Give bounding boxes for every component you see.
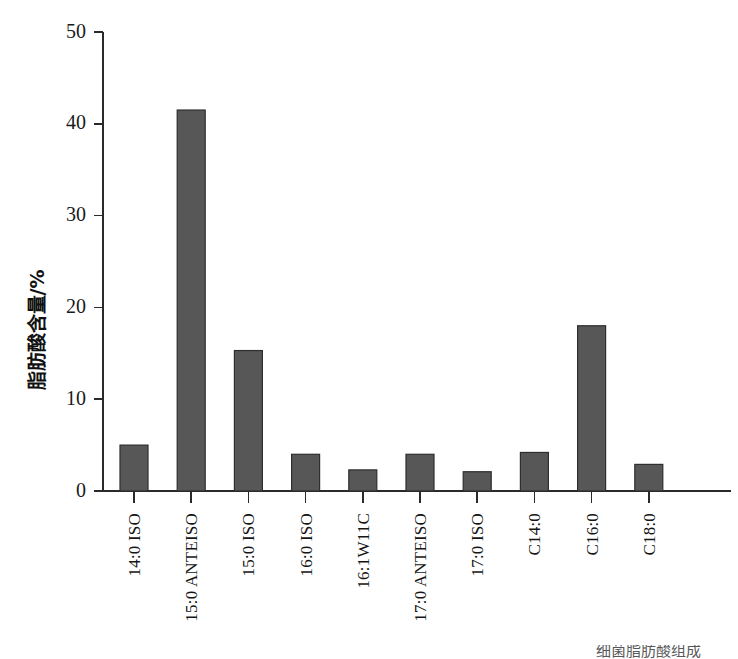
x-tick-label: 17:0 ANTEISO [411,513,430,622]
chart-canvas: 01020304050 14:0 ISO15:0 ANTEISO15:0 ISO… [0,0,738,659]
clipped-caption-text: 细菌脂肪酸组成 [596,645,736,658]
x-axis-ticks: 14:0 ISO15:0 ANTEISO15:0 ISO16:0 ISO16:1… [125,491,659,622]
x-tick-label: 16:0 ISO [297,513,316,576]
x-tick-label: C18:0 [640,513,659,556]
x-tick-label: 17:0 ISO [468,513,487,576]
bar [120,445,148,491]
y-tick-label: 0 [76,479,86,501]
svg-text:脂肪酸含量/%: 脂肪酸含量/% [26,270,48,391]
x-tick-label: C16:0 [583,513,602,556]
x-tick-label: 14:0 ISO [125,513,144,576]
bar [349,470,377,491]
y-tick-label: 10 [66,387,86,409]
y-tick-label: 20 [66,295,86,317]
bar [578,326,606,491]
x-tick-label: 16:1W11C [354,513,373,589]
y-tick-label: 50 [66,20,86,42]
y-tick-label: 40 [66,111,86,133]
x-tick-label: 15:0 ISO [239,513,258,576]
y-axis-label: 脂肪酸含量/% [26,270,48,391]
bar [406,454,434,491]
x-tick-label: C14:0 [525,513,544,556]
bar-series [120,110,663,491]
bar [635,464,663,491]
bar [463,472,491,491]
x-tick-label: 15:0 ANTEISO [182,513,201,622]
bar [520,452,548,491]
y-tick-label: 30 [66,203,86,225]
bar [234,351,262,491]
fatty-acid-bar-chart: 01020304050 14:0 ISO15:0 ANTEISO15:0 ISO… [0,0,738,659]
y-axis-ticks: 01020304050 [66,20,103,501]
bar [292,454,320,491]
bar [177,110,205,491]
